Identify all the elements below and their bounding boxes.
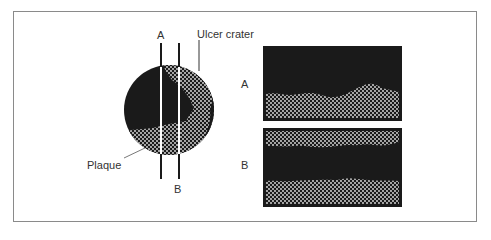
longitudinal-section-a — [263, 46, 402, 121]
cut-label-b: B — [174, 184, 181, 195]
panel-label-a: A — [241, 79, 248, 90]
plaque-pointer — [124, 148, 145, 158]
plaque-layer-b-top — [266, 131, 399, 147]
cut-label-a: A — [157, 30, 164, 41]
longitudinal-section-b — [263, 128, 402, 207]
plaque-label: Plaque — [87, 160, 121, 171]
plaque-layer-b-bottom — [266, 178, 399, 204]
ulcer-crater-label: Ulcer crater — [197, 29, 254, 40]
vessel-cross-section — [120, 64, 217, 160]
panel-label-b: B — [241, 160, 248, 171]
